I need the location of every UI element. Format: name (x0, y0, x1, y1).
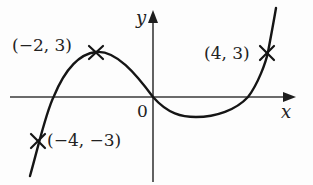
y-axis-arrow-icon (148, 10, 158, 23)
origin-label: 0 (137, 101, 148, 121)
label-point-left: (−4, −3) (47, 130, 121, 150)
label-point-right: (4, 3) (204, 43, 250, 63)
label-point-max: (−2, 3) (12, 35, 72, 55)
x-axis-label: x (281, 101, 291, 122)
y-axis-label: y (135, 7, 147, 28)
cubic-graph-figure: (−2, 3) (4, 3) (−4, −3) 0 x y (0, 0, 313, 185)
graph-canvas: (−2, 3) (4, 3) (−4, −3) 0 x y (0, 0, 313, 185)
